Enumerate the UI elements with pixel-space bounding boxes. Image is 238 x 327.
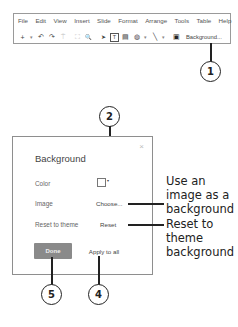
menu-file[interactable]: File — [18, 17, 28, 24]
chevron-down-icon[interactable]: ▾ — [107, 178, 109, 183]
apply-to-all-button[interactable]: Apply to all — [83, 243, 125, 259]
paint-format-icon[interactable]: ⍑ — [58, 33, 67, 42]
background-button[interactable]: Background... — [186, 34, 222, 40]
zoom-fit-icon[interactable]: ⛶ — [73, 33, 82, 42]
background-dialog: × Background Color ▾ Image Choose... Res… — [12, 136, 153, 275]
menu-format[interactable]: Format — [118, 17, 138, 24]
menu-table[interactable]: Table — [196, 17, 211, 24]
text-box-icon[interactable]: T — [110, 33, 119, 42]
color-swatch[interactable] — [97, 178, 106, 187]
callout-5-badge: 5 — [41, 284, 62, 305]
callout-5-line — [51, 257, 53, 285]
image-note: Use an image as a background — [166, 174, 234, 216]
undo-icon[interactable]: ↶ — [36, 33, 45, 42]
menu-bar: File Edit View Insert Slide Format Arran… — [18, 17, 238, 24]
reset-to-theme-label: Reset to theme — [35, 221, 78, 228]
menu-help[interactable]: Help — [219, 17, 232, 24]
comment-icon[interactable]: ▣ — [172, 33, 181, 42]
select-pointer-icon[interactable]: ➤ — [99, 33, 108, 42]
menu-edit[interactable]: Edit — [35, 17, 46, 24]
dropdown-caret-icon[interactable]: ▾ — [29, 33, 34, 42]
callout-4-line — [98, 256, 100, 285]
shape-icon[interactable]: ◍ — [132, 33, 141, 42]
color-label: Color — [35, 180, 50, 187]
redo-icon[interactable]: ↷ — [47, 33, 56, 42]
line-caret-icon[interactable]: ▾ — [161, 33, 166, 42]
line-icon[interactable]: ╲ — [150, 33, 159, 42]
menu-tools[interactable]: Tools — [175, 17, 189, 24]
new-slide-icon[interactable]: + — [18, 33, 27, 42]
image-label: Image — [35, 200, 53, 207]
menu-view[interactable]: View — [53, 17, 66, 24]
toolbar: File Edit View Insert Slide Format Arran… — [13, 13, 231, 44]
close-icon[interactable]: × — [139, 142, 144, 151]
callout-image-line — [128, 203, 164, 205]
reset-note: Reset to theme background — [166, 217, 234, 259]
zoom-icon[interactable]: 🔍 — [84, 33, 93, 42]
menu-insert[interactable]: Insert — [74, 17, 89, 24]
callout-2-badge: 2 — [99, 106, 120, 127]
menu-slide[interactable]: Slide — [97, 17, 111, 24]
dialog-title: Background — [35, 153, 86, 164]
menu-arrange[interactable]: Arrange — [145, 17, 167, 24]
reset-button[interactable]: Reset — [100, 221, 116, 228]
callout-reset-line — [128, 224, 164, 226]
tool-row: + ▾ ↶ ↷ ⍑ ⛶ 🔍 ➤ T ▤ ◍ ▾ ╲ ▾ ▣ Background… — [18, 32, 222, 42]
callout-1-badge: 1 — [200, 61, 221, 82]
callout-4-badge: 4 — [88, 284, 109, 305]
callout-1-line — [210, 43, 212, 62]
choose-image-button[interactable]: Choose... — [96, 200, 122, 207]
done-button[interactable]: Done — [34, 243, 72, 259]
image-icon[interactable]: ▤ — [121, 33, 130, 42]
shape-caret-icon[interactable]: ▾ — [143, 33, 148, 42]
color-picker[interactable]: ▾ — [97, 178, 109, 187]
